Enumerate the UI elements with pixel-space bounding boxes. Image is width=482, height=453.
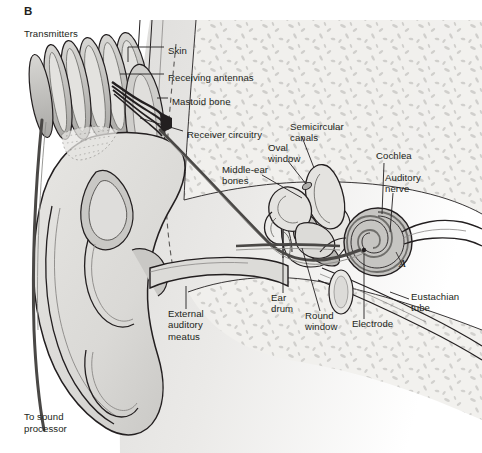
round-window: [329, 270, 353, 314]
figure-cochlear-implant-anatomy: B Transmitters Skin Receiving antennas M…: [0, 0, 482, 453]
label-region-a: A: [399, 258, 406, 269]
label-round-window: Round window: [305, 310, 337, 333]
anatomy-illustration: [0, 0, 482, 453]
label-receiver-circuitry: Receiver circuitry: [187, 129, 262, 140]
label-skin: Skin: [168, 45, 187, 56]
label-to-sound-processor-line2: processor: [24, 423, 67, 434]
label-oval-window: Oval window: [268, 142, 300, 165]
label-mastoid-bone: Mastoid bone: [172, 96, 231, 107]
panel-label-b: B: [24, 6, 33, 17]
label-electrode: Electrode: [352, 318, 393, 329]
label-cochlea: Cochlea: [376, 150, 412, 161]
label-ear-drum: Ear drum: [271, 292, 293, 315]
label-external-auditory-meatus: External auditory meatus: [168, 308, 204, 342]
label-eustachian-tube: Eustachian tube: [411, 291, 459, 314]
label-transmitters: Transmitters: [24, 28, 78, 39]
label-auditory-nerve: Auditory nerve: [385, 172, 421, 195]
label-middle-ear-bones: Middle-ear bones: [222, 164, 268, 187]
label-semicircular-canals: Semicircular canals: [290, 121, 344, 144]
label-receiving-antennas: Receiving antennas: [168, 72, 254, 83]
label-to-sound-processor-line1: To sound: [24, 411, 64, 422]
